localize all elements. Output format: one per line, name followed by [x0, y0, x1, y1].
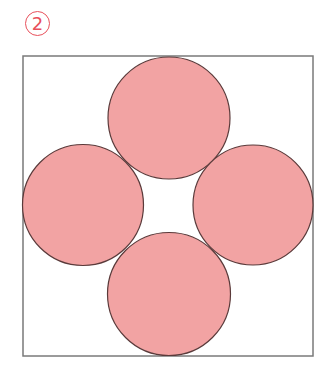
circle-right	[193, 145, 313, 265]
circle-left	[23, 145, 144, 266]
four-circles-in-square-diagram	[0, 0, 336, 381]
circle-bottom	[108, 233, 231, 356]
circles-group	[23, 57, 314, 356]
